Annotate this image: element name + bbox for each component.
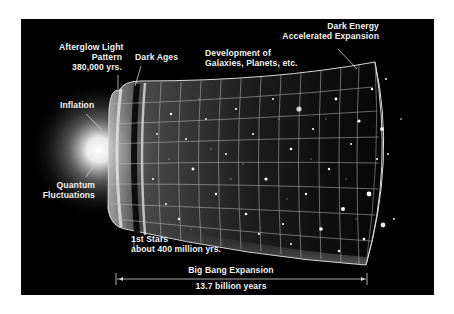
- quantum-fluctuations-label: Quantum Fluctuations: [39, 180, 95, 200]
- first-stars-line2: about 400 million yrs.: [131, 244, 221, 254]
- dark-ages-label: Dark Ages: [135, 52, 178, 62]
- dark-energy-line2: Accelerated Expansion: [281, 31, 379, 41]
- quantum-line1: Quantum: [39, 180, 95, 190]
- development-line2: Galaxies, Planets, etc.: [205, 58, 298, 68]
- afterglow-line3: 380,000 yrs.: [59, 62, 122, 72]
- first-stars-label: 1st Stars about 400 million yrs.: [131, 234, 221, 254]
- afterglow-label: Afterglow Light Pattern 380,000 yrs.: [59, 42, 122, 72]
- afterglow-line1: Afterglow Light: [59, 42, 122, 52]
- development-line1: Development of: [205, 48, 298, 58]
- dark-ages-band: [134, 84, 137, 233]
- dark-energy-label: Dark Energy Accelerated Expansion: [281, 21, 379, 41]
- development-label: Development of Galaxies, Planets, etc.: [205, 48, 298, 68]
- inflation-label: Inflation: [60, 100, 94, 110]
- first-stars-line1: 1st Stars: [131, 234, 221, 244]
- dark-energy-line1: Dark Energy: [281, 21, 379, 31]
- duration-label: 13.7 billion years: [171, 281, 291, 291]
- afterglow-line2: Pattern: [59, 52, 122, 62]
- quantum-line2: Fluctuations: [39, 190, 95, 200]
- big-bang-expansion-label: Big Bang Expansion: [171, 265, 291, 275]
- diagram-panel: Afterglow Light Pattern 380,000 yrs. Dar…: [21, 19, 434, 295]
